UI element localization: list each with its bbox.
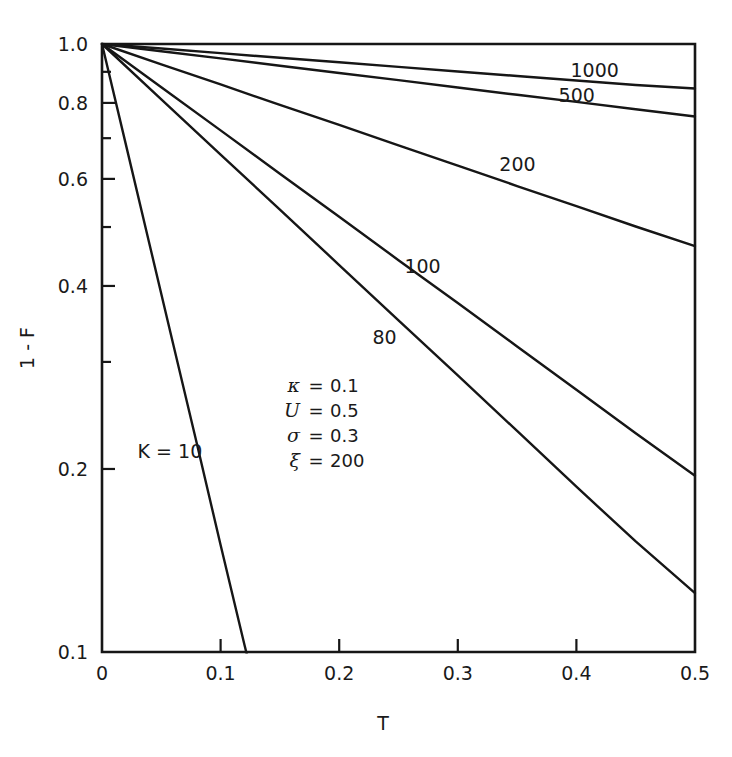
parameter-equals: = [308,450,323,471]
curve-label: K = 10 [138,440,203,462]
curve-label: 200 [499,153,535,175]
curve-label: 100 [404,255,440,277]
parameter-value: 0.5 [330,400,359,421]
x-axis-title: T [376,712,389,734]
x-tick-label: 0.2 [324,662,354,684]
y-tick-label: 0.8 [58,92,88,114]
chart-canvas: 1.00.80.60.40.20.1 00.10.20.30.40.5 1000… [0,0,732,757]
parameter-equals: = [308,400,323,421]
parameter-equals: = [308,425,323,446]
y-tick-label: 0.1 [58,641,88,663]
curve-label: 80 [372,326,396,348]
y-tick-label: 0.6 [58,168,88,190]
x-tick-label: 0 [96,662,108,684]
x-tick-label: 0.1 [205,662,235,684]
x-tick-label: 0.3 [443,662,473,684]
parameter-symbol: κ [287,374,301,396]
parameter-symbol: σ [287,424,301,446]
y-axis-title: 1 - F [16,327,38,369]
curve-label: 1000 [570,59,618,81]
x-tick-label: 0.5 [680,662,710,684]
y-tick-label: 1.0 [58,33,88,55]
parameter-symbol: ξ [290,449,302,471]
parameter-value: 200 [330,450,364,471]
parameter-value: 0.1 [330,375,359,396]
y-tick-label: 0.2 [58,458,88,480]
parameter-equals: = [308,375,323,396]
figure-semilog-survival-plot: 1.00.80.60.40.20.1 00.10.20.30.40.5 1000… [0,0,732,757]
y-tick-label: 0.4 [58,275,88,297]
parameter-symbol: U [284,399,301,421]
x-tick-label: 0.4 [561,662,591,684]
curve-label: 500 [559,84,595,106]
chart-background [0,0,732,757]
parameter-value: 0.3 [330,425,359,446]
